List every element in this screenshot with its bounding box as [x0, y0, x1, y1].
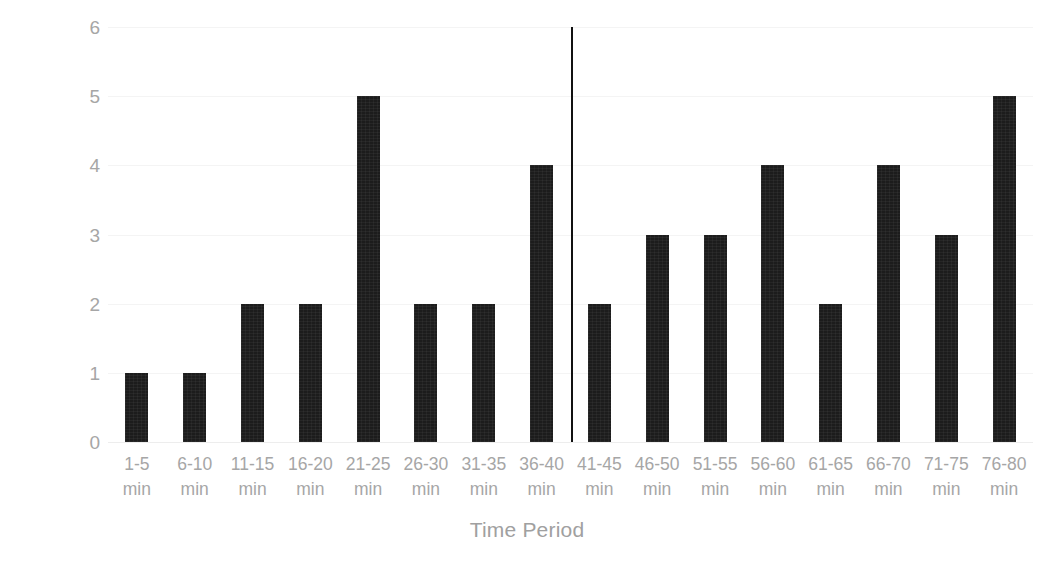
x-axis-tick-label: 41-45min [571, 452, 627, 502]
y-axis-tick-label: 2 [60, 294, 100, 313]
x-axis-tick-labels: 1-5min6-10min11-15min16-20min21-25min26-… [108, 452, 1033, 512]
x-axis-tick-range: 6-10 [177, 454, 212, 474]
bar [125, 373, 148, 442]
x-axis-tick-unit: min [803, 477, 859, 502]
bar [993, 96, 1016, 442]
x-axis-tick-unit: min [398, 477, 454, 502]
y-axis-tick-label: 4 [60, 156, 100, 175]
x-axis-tick-range: 31-35 [461, 454, 506, 474]
x-axis-tick-label: 26-30min [398, 452, 454, 502]
x-axis-tick-label: 56-60min [745, 452, 801, 502]
x-axis-tick-range: 51-55 [693, 454, 738, 474]
bar [877, 165, 900, 442]
y-axis-tick-label: 1 [60, 363, 100, 382]
bar-chart: Drop Goals Scored 0123456 1-5min6-10min1… [0, 0, 1054, 569]
x-axis-tick-label: 1-5min [109, 452, 165, 502]
bar [588, 304, 611, 442]
x-axis-tick-label: 51-55min [687, 452, 743, 502]
x-axis-tick-range: 41-45 [577, 454, 622, 474]
half-time-divider-line [571, 27, 573, 442]
x-axis-tick-unit: min [514, 477, 570, 502]
x-axis-tick-range: 26-30 [404, 454, 449, 474]
x-axis-tick-unit: min [109, 477, 165, 502]
bar [183, 373, 206, 442]
x-axis-tick-unit: min [340, 477, 396, 502]
x-axis-title: Time Period [0, 518, 1054, 542]
x-axis-tick-label: 61-65min [803, 452, 859, 502]
x-axis-tick-unit: min [629, 477, 685, 502]
x-axis-tick-unit: min [282, 477, 338, 502]
x-axis-tick-unit: min [918, 477, 974, 502]
x-axis-tick-label: 71-75min [918, 452, 974, 502]
x-axis-tick-label: 11-15min [225, 452, 281, 502]
x-axis-tick-label: 36-40min [514, 452, 570, 502]
bar [299, 304, 322, 442]
x-axis-tick-range: 46-50 [635, 454, 680, 474]
x-axis-tick-unit: min [167, 477, 223, 502]
x-axis-tick-unit: min [225, 477, 281, 502]
x-axis-tick-label: 6-10min [167, 452, 223, 502]
x-axis-tick-range: 56-60 [750, 454, 795, 474]
bar [241, 304, 264, 442]
y-axis-tick-label: 6 [60, 18, 100, 37]
bar [414, 304, 437, 442]
x-axis-tick-unit: min [456, 477, 512, 502]
x-axis-tick-unit: min [571, 477, 627, 502]
x-axis-tick-range: 36-40 [519, 454, 564, 474]
bar [472, 304, 495, 442]
x-axis-tick-range: 76-80 [982, 454, 1027, 474]
x-axis-tick-range: 61-65 [808, 454, 853, 474]
x-axis-tick-range: 16-20 [288, 454, 333, 474]
x-axis-tick-range: 71-75 [924, 454, 969, 474]
y-axis-tick-labels: 0123456 [54, 0, 100, 569]
gridline [108, 442, 1033, 443]
bar [704, 235, 727, 443]
plot-area [108, 27, 1033, 442]
x-axis-tick-range: 21-25 [346, 454, 391, 474]
y-axis-tick-label: 0 [60, 433, 100, 452]
y-axis-tick-label: 5 [60, 87, 100, 106]
x-axis-tick-range: 1-5 [124, 454, 149, 474]
x-axis-tick-label: 16-20min [282, 452, 338, 502]
y-axis-tick-label: 3 [60, 225, 100, 244]
x-axis-tick-label: 46-50min [629, 452, 685, 502]
x-axis-tick-unit: min [745, 477, 801, 502]
bar [357, 96, 380, 442]
bar [646, 235, 669, 443]
bar [819, 304, 842, 442]
x-axis-tick-label: 76-80min [976, 452, 1032, 502]
x-axis-tick-label: 31-35min [456, 452, 512, 502]
x-axis-tick-label: 66-70min [860, 452, 916, 502]
x-axis-tick-unit: min [860, 477, 916, 502]
bar [935, 235, 958, 443]
x-axis-tick-unit: min [687, 477, 743, 502]
x-axis-tick-unit: min [976, 477, 1032, 502]
x-axis-tick-label: 21-25min [340, 452, 396, 502]
bar [530, 165, 553, 442]
x-axis-tick-range: 11-15 [231, 454, 274, 474]
x-axis-tick-range: 66-70 [866, 454, 911, 474]
bar [761, 165, 784, 442]
